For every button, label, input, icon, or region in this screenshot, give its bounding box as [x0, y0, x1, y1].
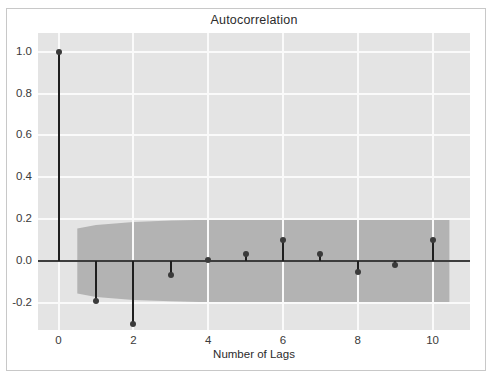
acf-marker — [430, 237, 436, 243]
gridline-vertical — [432, 33, 434, 330]
confidence-band — [38, 33, 470, 330]
acf-stem — [282, 240, 284, 261]
zero-baseline — [38, 260, 470, 262]
y-tick-label: 0.8 — [2, 87, 32, 99]
acf-stem — [132, 261, 134, 324]
acf-stem — [58, 52, 60, 261]
x-tick-label: 10 — [418, 334, 448, 346]
acf-marker — [56, 49, 62, 55]
gridline-horizontal — [38, 176, 470, 178]
gridline-horizontal — [38, 218, 470, 220]
acf-stem — [95, 261, 97, 301]
x-tick-label: 4 — [193, 334, 223, 346]
acf-marker — [280, 237, 286, 243]
gridline-horizontal — [38, 93, 470, 95]
y-tick-label: 0.4 — [2, 170, 32, 182]
acf-marker — [168, 272, 174, 278]
x-axis-title: Number of Lags — [38, 348, 470, 360]
x-tick-label: 2 — [118, 334, 148, 346]
gridline-vertical — [357, 33, 359, 330]
y-tick-label: 0.6 — [2, 128, 32, 140]
x-tick-label: 8 — [343, 334, 373, 346]
acf-marker — [243, 251, 249, 257]
plot-panel — [38, 33, 470, 330]
acf-marker — [93, 298, 99, 304]
y-tick-label: 1.0 — [2, 45, 32, 57]
autocorrelation-figure: Autocorrelation 1.00.80.60.40.20.0-0.2 0… — [0, 0, 493, 379]
gridline-vertical — [207, 33, 209, 330]
x-tick-label: 0 — [44, 334, 74, 346]
x-tick-label: 6 — [268, 334, 298, 346]
gridline-horizontal — [38, 51, 470, 53]
y-tick-label: -0.2 — [2, 296, 32, 308]
y-tick-label: 0.0 — [2, 254, 32, 266]
gridline-vertical — [282, 33, 284, 330]
gridline-horizontal — [38, 134, 470, 136]
y-tick-label: 0.2 — [2, 212, 32, 224]
acf-stem — [432, 240, 434, 261]
gridline-horizontal — [38, 302, 470, 304]
chart-title: Autocorrelation — [38, 13, 470, 27]
